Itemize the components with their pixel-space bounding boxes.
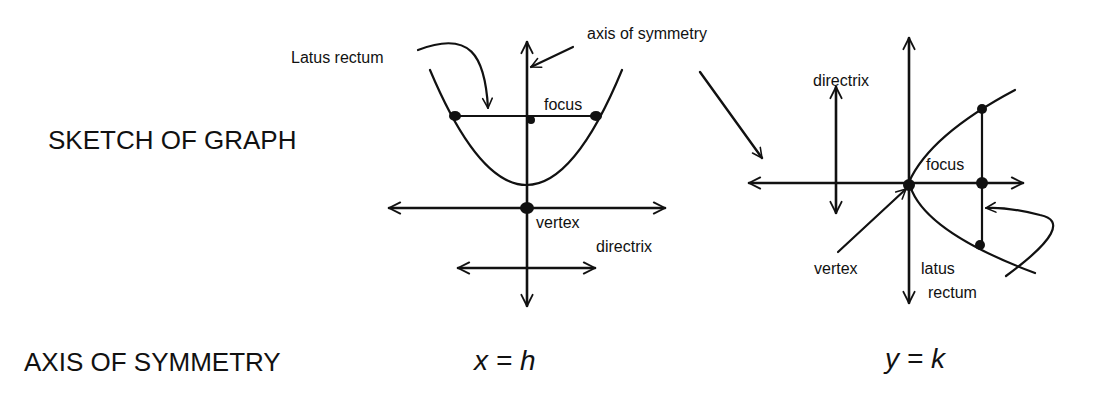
equation-horizontal-parabola: y = k — [885, 343, 945, 375]
right-label-vertex: vertex — [814, 260, 858, 278]
left-vertex-point — [520, 202, 534, 214]
right-label-latus: latus — [921, 260, 955, 278]
equation-vertical-parabola: x = h — [474, 345, 535, 377]
right-label-directrix: directrix — [813, 72, 869, 90]
right-latus-endpoint-top — [977, 104, 987, 114]
left-graph-points — [449, 111, 602, 214]
left-label-directrix: directrix — [596, 238, 652, 256]
right-label-focus: focus — [926, 156, 964, 174]
right-latus-endpoint-bottom — [975, 240, 985, 250]
left-label-focus: focus — [544, 96, 582, 114]
right-parabola — [909, 90, 1035, 273]
left-axis-pointer — [531, 47, 573, 67]
left-label-latus-rectum: Latus rectum — [291, 49, 383, 67]
right-vertex-point — [903, 179, 915, 191]
left-focus-point — [527, 116, 535, 124]
right-label-rectum: rectum — [928, 284, 977, 302]
left-label-vertex: vertex — [536, 214, 580, 232]
parabola-diagrams — [0, 0, 1097, 393]
left-label-axis-of-symmetry: axis of symmetry — [587, 25, 707, 43]
right-graph — [749, 38, 1053, 303]
axis-pointer-to-right-graph — [700, 72, 762, 158]
left-latus-endpoint-right — [590, 111, 602, 121]
right-focus-point — [976, 177, 988, 189]
right-latus-rectum-pointer — [986, 208, 1053, 276]
left-graph — [389, 42, 762, 306]
left-latus-rectum-pointer — [418, 43, 488, 108]
left-latus-endpoint-left — [449, 111, 461, 121]
right-vertex-pointer — [838, 189, 906, 252]
